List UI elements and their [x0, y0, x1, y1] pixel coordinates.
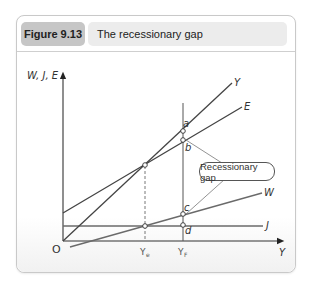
- svg-text:Y: Y: [139, 247, 146, 257]
- point-c-label: c: [184, 202, 190, 213]
- svg-text:F: F: [184, 251, 188, 258]
- line-y-label: Y: [234, 77, 241, 88]
- point-a-marker: [181, 129, 186, 134]
- svg-text:Y: Y: [177, 247, 184, 257]
- line-e-label: E: [244, 101, 251, 112]
- equilibrium-point-marker: [143, 163, 148, 168]
- recessionary-gap-label: Recessionary gap: [199, 162, 275, 181]
- origin-label: O: [52, 243, 61, 256]
- ye-j-w-marker: [143, 224, 148, 229]
- point-b-label: b: [185, 142, 191, 153]
- ye-tick-label: Y e: [139, 247, 150, 258]
- point-a-label: a: [183, 118, 189, 129]
- line-j-label: J: [264, 220, 269, 231]
- w-line: [70, 193, 262, 247]
- recessionary-gap-chart: W, J, E Y O Y E W J a b c d Y e Y F: [0, 0, 311, 287]
- svg-text:e: e: [146, 251, 150, 258]
- x-axis-label: Y: [279, 247, 286, 258]
- y-axis-label: W, J, E: [27, 70, 59, 81]
- yf-tick-label: Y F: [177, 247, 188, 258]
- line-w-label: W: [264, 187, 275, 198]
- point-d-label: d: [185, 225, 192, 236]
